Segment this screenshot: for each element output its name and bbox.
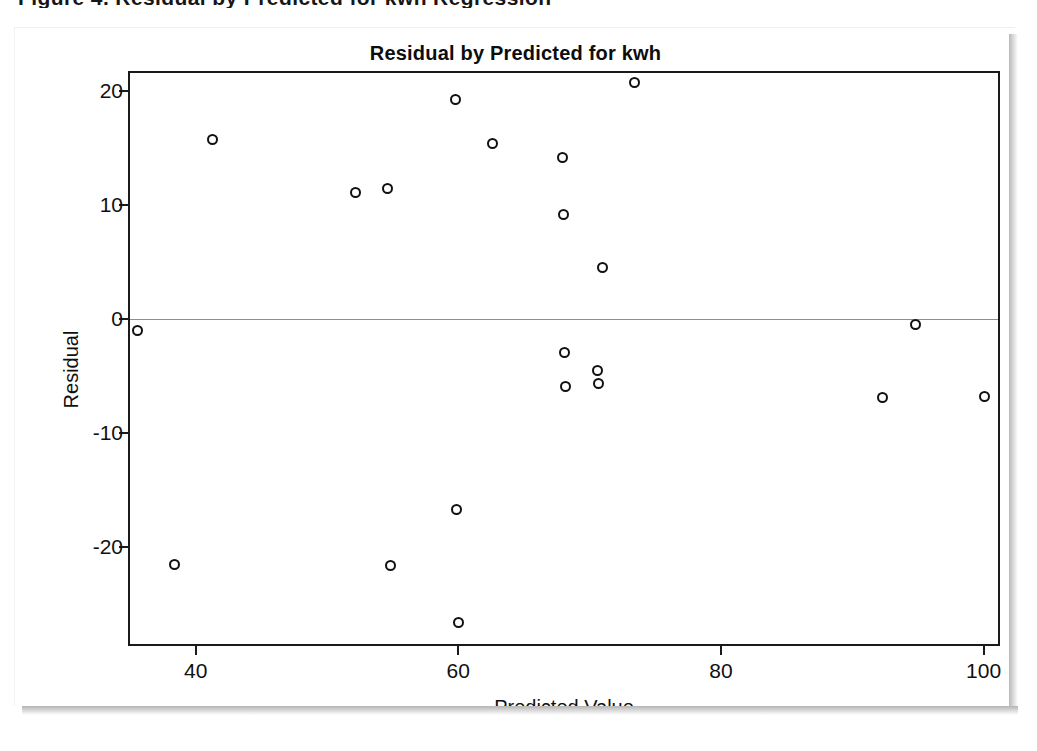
scatter-point [877,392,888,403]
x-axis-tick-mark [195,644,197,655]
x-axis-tick-mark [457,644,459,655]
y-axis-title: Residual [60,300,83,440]
scatter-point [385,560,396,571]
x-axis-tick-label: 40 [184,659,207,683]
scatter-point [350,187,361,198]
plot-area: 20100-10-20 406080100 [128,71,1000,646]
scatter-point [910,319,921,330]
chart-title: Residual by Predicted for kwh [15,42,1016,65]
y-axis-tick-label: 0 [111,307,123,331]
scatter-point [597,262,608,273]
figure-shadow-bottom [22,706,1018,715]
scatter-point [453,617,464,628]
scatter-point [169,559,180,570]
scatter-point [382,183,393,194]
scatter-point [979,391,990,402]
scatter-point [593,378,604,389]
y-axis-tick-label: -10 [93,421,123,445]
clipped-document-heading: Figure 4. Residual by Predicted for kwh … [0,0,1037,8]
y-axis-tick-label: -20 [93,535,123,559]
scatter-point [592,365,603,376]
x-axis-tick-label: 80 [709,659,732,683]
scatter-point [451,504,462,515]
x-axis-tick-label: 60 [447,659,470,683]
figure-card: Residual by Predicted for kwh 20100-10-2… [14,27,1015,706]
figure-shadow-right [1009,34,1018,712]
x-axis-tick-mark [983,644,985,655]
scatter-point [487,138,498,149]
x-axis-tick-mark [720,644,722,655]
x-axis-tick-label: 100 [966,659,1001,683]
scatter-point [560,381,571,392]
scatter-point [450,94,461,105]
scatter-point [557,152,568,163]
y-axis-tick-label: 10 [100,193,123,217]
scatter-point [207,134,218,145]
zero-reference-line [130,319,998,320]
y-axis-tick-label: 20 [100,79,123,103]
scatter-point [132,325,143,336]
scatter-point [558,209,569,220]
scatter-point [629,77,640,88]
scatter-point [559,347,570,358]
